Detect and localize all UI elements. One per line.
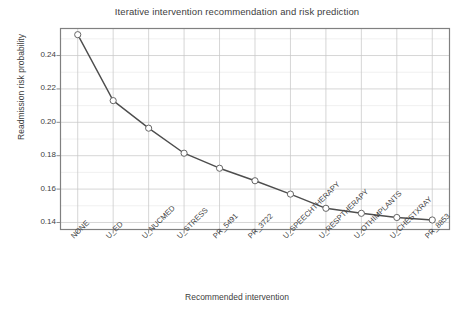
data-point-marker: [323, 205, 329, 211]
y-axis-tick-label: 0.22: [22, 83, 56, 92]
y-axis-tick-label: 0.16: [22, 184, 56, 193]
y-axis-tick-label: 0.24: [22, 50, 56, 59]
data-point-marker: [252, 178, 258, 184]
data-point-marker: [75, 32, 81, 38]
chart-figure: Iterative intervention recommendation an…: [0, 0, 474, 315]
data-point-marker: [216, 165, 222, 171]
data-point-marker: [287, 191, 293, 197]
y-axis-tick-label: 0.20: [22, 117, 56, 126]
data-point-marker: [394, 214, 400, 220]
x-axis-label: Recommended intervention: [0, 292, 474, 302]
chart-title: Iterative intervention recommendation an…: [0, 6, 474, 17]
y-axis-tick-label: 0.14: [22, 217, 56, 226]
y-axis-tick-label: 0.18: [22, 150, 56, 159]
data-point-marker: [110, 98, 116, 104]
data-point-marker: [358, 210, 364, 216]
y-axis-tick-labels: 0.140.160.180.200.220.24: [18, 28, 56, 230]
data-point-marker: [146, 125, 152, 131]
data-point-marker: [181, 150, 187, 156]
